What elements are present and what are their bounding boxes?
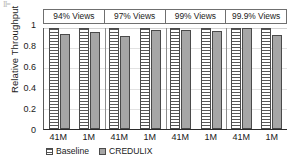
y-tick-label: 0.8 [23, 42, 36, 51]
bar-credulix [242, 28, 252, 129]
x-tick-group: 41M1M [165, 131, 226, 144]
bar-pair [135, 28, 165, 129]
legend-item-credulix: CREDULIX [99, 147, 152, 156]
bar-pair [166, 28, 196, 129]
x-tick-label: 1M [74, 131, 105, 144]
x-tick-label: 1M [196, 131, 227, 144]
panel-header-1: 94% Views [44, 10, 105, 23]
panel-header-band: 94% Views97% Views99% Views99.9% Views [43, 9, 287, 24]
x-tick-group: 41M1M [104, 131, 165, 144]
legend-item-baseline: Baseline [46, 147, 89, 156]
bar-pair [196, 28, 226, 129]
x-tick-label: 41M [165, 131, 196, 144]
legend-swatch-credulix-icon [99, 148, 106, 155]
y-tick-label: 0 [31, 126, 36, 135]
chart-figure: II= Relative Throughput 10.80.60.40.20 9… [0, 0, 290, 161]
chart-legend: BaselineCREDULIX [46, 145, 152, 158]
bar-credulix [120, 36, 130, 129]
bar-pair [226, 28, 256, 129]
x-tick-label: 1M [135, 131, 166, 144]
x-tick-group: 41M1M [43, 131, 104, 144]
bar-baseline [79, 28, 89, 129]
bar-credulix [60, 34, 70, 129]
y-tick-label: 0.2 [23, 105, 36, 114]
bar-credulix [151, 30, 161, 129]
legend-label: CREDULIX [109, 147, 152, 156]
bar-credulix [90, 32, 100, 129]
x-tick-group: 41M1M [226, 131, 287, 144]
bar-pair [257, 28, 287, 129]
bar-credulix [181, 30, 191, 129]
bar-groups [44, 28, 287, 129]
bar-group [226, 28, 287, 129]
bar-baseline [261, 28, 271, 129]
bar-group [44, 28, 105, 129]
bar-credulix [272, 35, 282, 129]
panel-header-3: 99% Views [166, 10, 227, 23]
bar-baseline [109, 28, 119, 129]
legend-swatch-baseline-icon [46, 148, 53, 155]
y-tick-label: 1 [31, 21, 36, 30]
x-tick-label: 41M [226, 131, 257, 144]
bar-baseline [140, 28, 150, 129]
x-tick-label: 41M [104, 131, 135, 144]
bar-baseline [231, 28, 241, 129]
panel-header-2: 97% Views [105, 10, 166, 23]
y-axis-tick-labels: 10.80.60.40.20 [14, 25, 36, 130]
bar-baseline [170, 28, 180, 129]
x-tick-label: 41M [43, 131, 74, 144]
bar-pair [44, 28, 74, 129]
bar-group [166, 28, 227, 129]
bar-pair [105, 28, 135, 129]
bar-credulix [212, 31, 222, 129]
y-tick-label: 0.6 [23, 63, 36, 72]
bar-group [105, 28, 166, 129]
panel-header-4: 99.9% Views [226, 10, 286, 23]
bar-baseline [49, 28, 59, 129]
legend-label: Baseline [56, 147, 89, 156]
x-axis-tick-labels: 41M1M41M1M41M1M41M1M [43, 131, 287, 144]
bar-pair [74, 28, 104, 129]
plot-area [43, 28, 287, 130]
y-tick-label: 0.4 [23, 84, 36, 93]
bar-baseline [201, 28, 211, 129]
x-tick-label: 1M [257, 131, 288, 144]
